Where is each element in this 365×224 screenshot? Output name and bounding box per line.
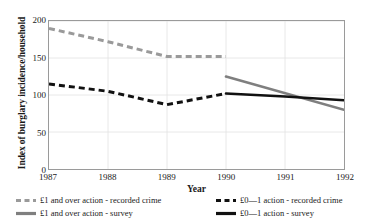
plot-area — [48, 20, 345, 170]
legend-swatch-dashed-black — [216, 196, 236, 205]
x-axis-title: Year — [48, 184, 345, 194]
legend-item-1[interactable]: £0—1 action - recorded crime — [216, 195, 342, 205]
legend-swatch-solid-black — [216, 209, 236, 218]
legend-item-2[interactable]: £1 and over action - survey — [16, 208, 133, 218]
x-tick-1987: 1987 — [23, 172, 73, 183]
legend-label-1: £0—1 action - recorded crime — [240, 195, 342, 205]
legend-label-3: £0—1 action - survey — [240, 208, 314, 218]
series-line-1 — [49, 84, 226, 105]
legend-item-0[interactable]: £1 and over action - recorded crime — [16, 195, 161, 205]
y-tick-200: 200 — [6, 16, 46, 25]
legend-swatch-solid-gray — [16, 209, 36, 218]
x-tick-1991: 1991 — [261, 172, 311, 183]
chart-legend: £1 and over action - recorded crime £0—1… — [16, 195, 356, 221]
x-tick-1992: 1992 — [320, 172, 365, 183]
legend-swatch-dashed-gray — [16, 196, 36, 205]
x-tick-1988: 1988 — [82, 172, 132, 183]
plot-canvas — [49, 21, 344, 169]
legend-item-3[interactable]: £0—1 action - survey — [216, 208, 314, 218]
y-axis-tick-labels: 200 150 100 50 0 — [2, 20, 46, 170]
y-tick-50: 50 — [6, 129, 46, 138]
x-tick-1990: 1990 — [201, 172, 251, 183]
legend-label-2: £1 and over action - survey — [40, 208, 133, 218]
y-tick-100: 100 — [6, 91, 46, 100]
x-tick-1989: 1989 — [142, 172, 192, 183]
burglary-incidence-line-chart: Index of burglary incidence/household 20… — [0, 0, 365, 224]
y-tick-150: 150 — [6, 54, 46, 63]
series-line-0 — [49, 28, 226, 56]
legend-label-0: £1 and over action - recorded crime — [40, 195, 161, 205]
